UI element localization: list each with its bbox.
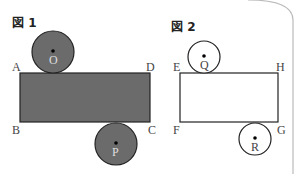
figure-1-title: 図 1 — [12, 16, 37, 30]
rectangle-abcd — [20, 73, 150, 122]
label-a: A — [12, 60, 21, 74]
label-c: C — [148, 123, 156, 137]
diagram-canvas: 図 1 O P A D B C 図 2 Q R E H F G — [0, 0, 298, 174]
label-g: G — [277, 123, 286, 137]
figure-1: 図 1 O P A D B C — [12, 16, 156, 165]
label-r: R — [251, 140, 259, 154]
label-e: E — [173, 60, 180, 74]
label-f: F — [173, 123, 180, 137]
label-b: B — [12, 123, 20, 137]
figure-2-title: 図 2 — [171, 20, 196, 34]
label-d: D — [146, 60, 155, 74]
label-o: O — [49, 53, 58, 67]
rectangle-efgh — [180, 73, 278, 122]
label-q: Q — [200, 58, 209, 72]
label-p: P — [112, 145, 119, 159]
label-h: H — [276, 60, 285, 74]
figure-2: 図 2 Q R E H F G — [171, 20, 286, 155]
